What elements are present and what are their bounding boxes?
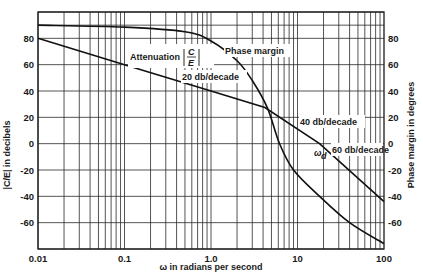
left-y-tick-label: 40: [23, 86, 34, 97]
x-tick-label: 100: [376, 253, 392, 264]
right-y-tick-label: -40: [388, 191, 402, 202]
left-y-tick-labels: 806040200-20-40-60: [20, 33, 34, 228]
slope-20-label: 20 db/decade: [181, 70, 247, 83]
svg-text:d: d: [321, 151, 327, 161]
left-y-tick-label: 80: [23, 33, 34, 44]
x-axis-title: ω in radians per second: [159, 262, 262, 272]
svg-text:C: C: [188, 47, 195, 57]
slope-60-label: 60 db/decade: [331, 143, 389, 156]
x-tick-label: 0.01: [29, 253, 48, 264]
svg-text:Attenuation: Attenuation: [130, 52, 180, 62]
left-y-tick-label: -40: [20, 191, 34, 202]
right-y-tick-labels: 806040200-20-40-60: [388, 33, 402, 228]
svg-text:20 db/decade: 20 db/decade: [182, 72, 239, 82]
left-y-tick-label: 20: [23, 112, 34, 123]
svg-text:Phase margin: Phase margin: [225, 46, 284, 56]
svg-text:60 db/decade: 60 db/decade: [332, 145, 389, 155]
right-y-tick-label: 60: [388, 59, 399, 70]
left-y-tick-label: -20: [20, 165, 34, 176]
x-tick-label: 10: [292, 253, 303, 264]
omega-d-label: ω d: [314, 148, 327, 161]
right-y-tick-label: 80: [388, 33, 399, 44]
right-y-tick-label: 40: [388, 86, 399, 97]
svg-text:40 db/decade: 40 db/decade: [300, 117, 357, 127]
right-y-tick-label: -60: [388, 217, 402, 228]
right-y-tick-label: -20: [388, 165, 402, 176]
bode-chart: 0.010.11.010100 806040200-20-40-60 80604…: [0, 0, 423, 278]
svg-text:E: E: [188, 58, 195, 68]
left-y-tick-label: -60: [20, 217, 34, 228]
right-y-tick-label: 20: [388, 112, 399, 123]
left-y-axis-title: |C/E| in decibels: [2, 120, 12, 189]
attenuation-label: Attenuation C E: [128, 44, 214, 68]
left-y-tick-label: 0: [29, 138, 34, 149]
slope-40-label: 40 db/decade: [299, 115, 365, 128]
x-tick-label: 0.1: [118, 253, 132, 264]
right-y-axis-title: Phase margin in degrees: [406, 82, 416, 189]
left-y-tick-label: 60: [23, 59, 34, 70]
phase-margin-label: Phase margin: [224, 44, 290, 57]
